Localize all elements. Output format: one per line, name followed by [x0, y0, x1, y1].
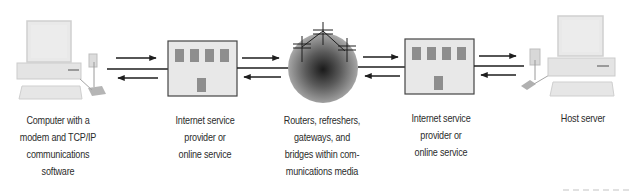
connection-isp-host [474, 56, 524, 75]
label-line: communications [15, 146, 101, 163]
label-line: Internet service [398, 110, 484, 127]
isp-left-building-icon [168, 41, 237, 96]
label-line: provider or [162, 129, 248, 146]
host-server-icon [521, 16, 615, 96]
label-line: modem and TCP/IP [15, 129, 101, 146]
label-isp-left: Internet service provider or online serv… [162, 112, 248, 163]
label-line: online service [162, 146, 248, 163]
connection-client-isp [107, 58, 168, 78]
client-computer-icon [17, 21, 106, 99]
label-host-server: Host server [540, 110, 626, 127]
label-line: software [15, 163, 101, 180]
internet-connection-diagram: Computer with a modem and TCP/IP communi… [0, 0, 633, 193]
label-line: bridges within com- [270, 146, 373, 163]
label-client-computer: Computer with a modem and TCP/IP communi… [15, 112, 101, 180]
label-isp-right: Internet service provider or online serv… [398, 110, 484, 161]
label-line: Host server [540, 110, 626, 127]
label-network-media: Routers, refreshers, gateways, and bridg… [270, 112, 373, 180]
label-line: munications media [270, 163, 373, 180]
connection-network-isp [358, 57, 405, 76]
label-line: provider or [398, 127, 484, 144]
label-line: Internet service [162, 112, 248, 129]
network-sphere-icon [288, 22, 358, 103]
label-line: gateways, and [270, 129, 373, 146]
label-line: Routers, refreshers, [270, 112, 373, 129]
label-line: Computer with a [15, 112, 101, 129]
label-line: online service [398, 144, 484, 161]
connection-isp-network [237, 58, 289, 77]
isp-right-building-icon [405, 39, 474, 94]
